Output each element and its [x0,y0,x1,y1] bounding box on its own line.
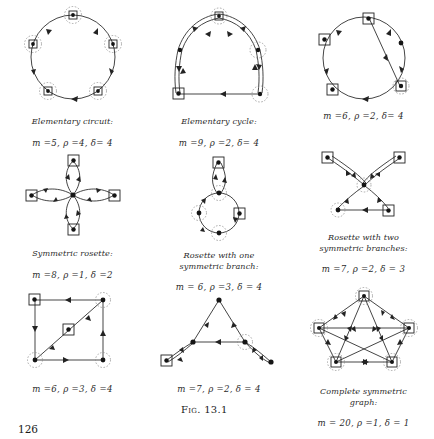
caption-params: m =8, ρ =1, δ =2 [0,270,145,280]
caption-title: Symmetric rosette: [0,248,145,258]
node [39,83,56,100]
caption-complete-symmetric-graph: Complete symmetric graph: m = 20, ρ =1, … [293,376,434,439]
node [104,36,121,53]
node [398,41,403,46]
node [190,339,195,344]
figure-panel-rosette-one-branch: Rosette with one symmetric branch: m = 6… [145,152,293,303]
caption-params: m =5, ρ =4, δ= 4 [0,138,145,148]
figure-panel-circuit-with-chord: m =6, ρ =2, δ= 4 [293,8,434,132]
node [216,297,221,302]
node [319,34,330,45]
figure-number-label: Fig. 13.1 [181,404,228,415]
caption-title: Elementary cycle: [145,116,293,126]
diagram-symmetric-rosette [14,152,132,238]
node [268,359,273,364]
caption-elementary-circuit: Elementary circuit: m =5, ρ =4, δ= 4 [0,106,145,159]
diagram-elementary-cycle [160,8,278,106]
caption-rosette-two-branches: Rosette with two symmetric branches: m =… [293,222,434,285]
diagram-complete-symmetric-graph [305,288,423,372]
node [327,84,338,95]
node [211,8,227,24]
figure-panel-arborescence: m =7, ρ =2, δ = 4 [145,292,293,405]
node [212,226,227,241]
figure-panel-square-with-diagonal: m =6, ρ =3, δ =4 [0,292,145,405]
graph-nodes [173,8,268,102]
caption-params: m =7, ρ =2, δ = 3 [293,264,434,274]
node [68,155,79,166]
caption-title: Rosette with two symmetric branches: [293,232,434,253]
edge-arrowheads [177,322,263,362]
graph-nodes [27,293,110,368]
node [234,208,245,219]
graph-nodes [24,7,121,100]
caption-elementary-cycle: Elementary cycle: m =9, ρ =2, δ= 4 [145,106,293,159]
caption-title: Rosette with one symmetric branch: [145,250,293,271]
figure-panel-elementary-cycle: Elementary cycle: m =9, ρ =2, δ= 4 [145,8,293,159]
figure-panel-elementary-circuit: Elementary circuit: m =5, ρ =4, δ= 4 [0,8,145,159]
figure-panel-rosette-two-branches: Rosette with two symmetric branches: m =… [293,148,434,285]
node [26,190,37,201]
graph-edges [323,17,405,99]
node [393,78,409,94]
node [109,190,120,201]
node [192,206,207,221]
page-number: 126 [18,423,38,435]
graph-edges [31,15,115,99]
node [178,48,182,52]
node [355,288,372,305]
node-center [70,192,75,197]
caption-title: Elementary circuit: [0,116,145,126]
node [173,88,184,99]
node [383,205,394,216]
graph-nodes [319,13,409,95]
caption-params: m =6, ρ =2, δ= 4 [293,111,434,121]
caption-params: m =7, ρ =2, δ = 4 [145,384,293,394]
caption-params: m = 20, ρ =1, δ = 1 [293,418,434,428]
diagram-rosette-two-branches [308,148,420,220]
node [29,294,40,305]
edge-arrowheads [200,174,238,232]
diagram-rosette-one-branch [160,152,278,240]
edge-arrowheads [344,170,382,213]
node [24,36,41,53]
figure-panel-complete-symmetric-graph: Complete symmetric graph: m = 20, ρ =1, … [293,288,434,439]
edge-arrowheads [324,29,404,102]
figure-panel-symmetric-rosette: Symmetric rosette: m =8, ρ =1, δ =2 [0,152,145,291]
graph-edges [199,163,239,233]
diagram-square-with-diagonal [17,292,129,368]
diagram-elementary-circuit [14,8,132,106]
graph-nodes [322,152,405,217]
graph-edges [319,296,409,362]
caption-arborescence: m =7, ρ =2, δ = 4 [145,373,293,405]
caption-circuit-with-chord: m =6, ρ =2, δ= 4 [293,100,434,132]
node [322,152,333,163]
caption-params: m =6, ρ =3, δ =4 [0,384,145,394]
node [363,13,374,24]
graph-edges [175,14,263,94]
caption-symmetric-rosette: Symmetric rosette: m =8, ρ =1, δ =2 [0,238,145,291]
graph-nodes [310,288,417,371]
diagram-circuit-with-chord [305,8,423,106]
caption-square-with-diagonal: m =6, ρ =3, δ =4 [0,373,145,405]
graph-edges [167,300,271,363]
graph-nodes [192,157,246,241]
diagram-arborescence [157,292,282,368]
node [68,224,79,235]
node-center [357,178,371,192]
figure-page: Elementary circuit: m =5, ρ =4, δ= 4 [0,0,434,439]
caption-params: m =9, ρ =2, δ= 4 [145,138,293,148]
caption-params: m = 6, ρ =3, δ = 4 [145,282,293,292]
caption-title: Complete symmetric graph: [293,386,434,407]
graph-nodes [26,155,120,235]
